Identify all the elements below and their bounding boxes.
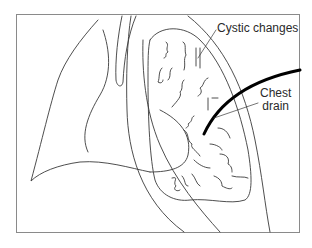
trachea-right bbox=[127, 16, 184, 232]
mediastinum-line bbox=[143, 40, 220, 232]
cystic-changes-label: Cystic changes bbox=[217, 22, 298, 35]
left-lung-outline bbox=[31, 20, 150, 181]
chest-drain-label-line2: drain bbox=[260, 100, 291, 113]
trachea-left bbox=[116, 16, 136, 86]
lung-drawing bbox=[0, 0, 312, 248]
heart-border bbox=[150, 110, 189, 172]
diagram-canvas: Cystic changes Chest drain bbox=[0, 0, 312, 248]
affected-lung-outline bbox=[148, 29, 251, 202]
left-hilum-curve bbox=[85, 30, 109, 152]
chest-drain-label: Chest drain bbox=[260, 87, 291, 113]
